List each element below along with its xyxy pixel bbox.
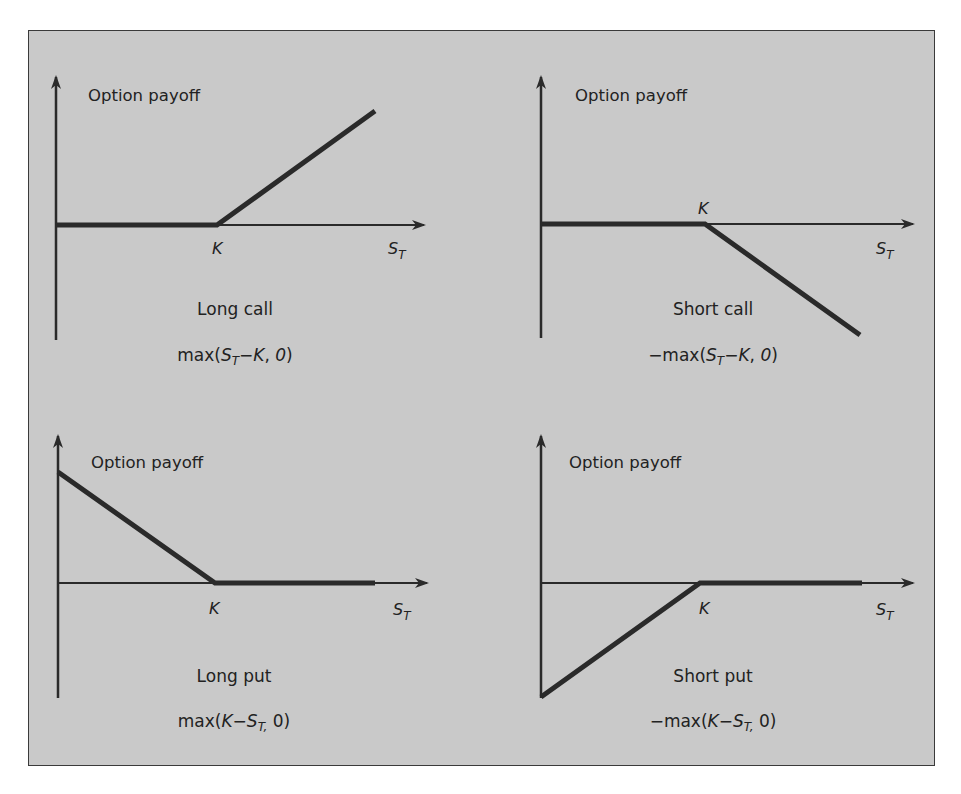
panel-title: Long call	[197, 299, 273, 319]
formula-mid: −	[233, 711, 247, 731]
formula-zero: 0	[275, 345, 286, 365]
x-axis-label: ST	[393, 600, 412, 623]
x-axis-var: S	[876, 600, 886, 619]
strike-label: K	[699, 599, 711, 618]
payoff-formula: max(K−ST, 0)	[178, 711, 290, 734]
y-axis-label: Option payoff	[575, 86, 688, 105]
formula-pre: max(	[178, 711, 222, 731]
y-axis-label: Option payoff	[569, 453, 682, 472]
formula-post: )	[771, 345, 778, 365]
strike-label: K	[212, 239, 224, 258]
formula-sep: ,	[264, 345, 275, 365]
payoff-formula: max(ST−K, 0)	[177, 345, 293, 368]
payoff-formula: −max(K−ST, 0)	[650, 711, 777, 734]
x-axis-var: S	[876, 239, 886, 258]
formula-s: S	[221, 345, 232, 365]
panel-short-put: Option payoff K ST Short put −max(K−ST, …	[541, 436, 913, 734]
payoff-line	[58, 472, 375, 583]
x-axis-sub: T	[403, 609, 412, 623]
formula-mid: −	[719, 711, 733, 731]
formula-pre: −max(	[648, 345, 706, 365]
x-axis-sub: T	[886, 248, 895, 262]
formula-post: 0)	[754, 711, 777, 731]
y-axis-label: Option payoff	[88, 86, 201, 105]
panel-title: Long put	[197, 666, 272, 686]
x-axis-sub: T	[398, 248, 407, 262]
formula-s: S	[733, 711, 744, 731]
formula-post: )	[286, 345, 293, 365]
y-axis-label: Option payoff	[91, 453, 204, 472]
payoff-formula: −max(ST−K, 0)	[648, 345, 778, 368]
panel-long-put: Option payoff K ST Long put max(K−ST, 0)	[58, 436, 427, 734]
formula-sep: ,	[750, 345, 761, 365]
payoff-diagrams: Option payoff K ST Long call max(ST−K, 0…	[0, 0, 961, 794]
formula-mid: −	[239, 345, 253, 365]
payoff-line	[56, 111, 375, 225]
x-axis-label: ST	[388, 239, 407, 262]
formula-zero: 0	[760, 345, 771, 365]
formula-post: 0)	[267, 711, 290, 731]
panel-short-call: Option payoff K ST Short call −max(ST−K,…	[541, 77, 913, 368]
x-axis-var: S	[393, 600, 403, 619]
x-axis-label: ST	[876, 239, 895, 262]
x-axis-label: ST	[876, 600, 895, 623]
formula-mid: −	[724, 345, 738, 365]
formula-s: S	[706, 345, 717, 365]
formula-sub: T,	[744, 720, 754, 734]
x-axis-var: S	[388, 239, 398, 258]
formula-pre: max(	[177, 345, 221, 365]
panel-long-call: Option payoff K ST Long call max(ST−K, 0…	[56, 77, 424, 368]
x-axis-sub: T	[886, 609, 895, 623]
panel-title: Short put	[673, 666, 753, 686]
formula-sub: T,	[258, 720, 268, 734]
formula-s: S	[247, 711, 258, 731]
strike-label: K	[698, 199, 710, 218]
formula-pre: −max(	[650, 711, 708, 731]
panel-title: Short call	[673, 299, 753, 319]
strike-label: K	[209, 599, 221, 618]
